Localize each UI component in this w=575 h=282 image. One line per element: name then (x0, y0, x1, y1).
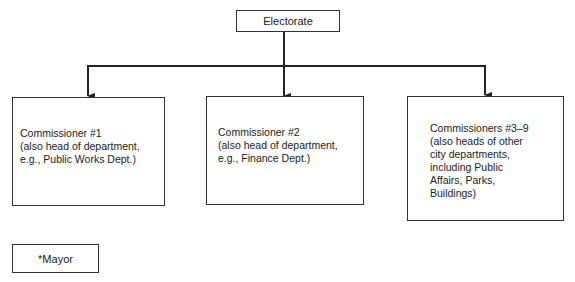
electorate-box: Electorate (236, 10, 340, 32)
mayor-label: *Mayor (38, 253, 73, 265)
commissioners-3-9-box: Commissioners #3–9 (also heads of other … (407, 96, 564, 221)
commissioner-2-title: Commissioner #2 (218, 126, 363, 139)
commissioner-1-title: Commissioner #1 (20, 127, 164, 140)
commissioners-3-9-line-3: including Public (430, 161, 563, 174)
commissioner-1-box: Commissioner #1 (also head of department… (12, 97, 165, 206)
commissioner-2-box: Commissioner #2 (also head of department… (206, 96, 364, 205)
commissioners-3-9-line-2: city departments, (430, 148, 563, 161)
commissioner-2-line-1: (also head of department, (218, 139, 363, 152)
commissioners-3-9-line-4: Affairs, Parks, (430, 174, 563, 187)
commissioner-1-line-1: (also head of department, (20, 140, 164, 153)
commissioners-3-9-line-1: (also heads of other (430, 135, 563, 148)
electorate-label: Electorate (263, 15, 313, 27)
commissioner-1-line-2: e.g., Public Works Dept.) (20, 153, 164, 166)
commissioner-2-line-2: e.g., Finance Dept.) (218, 152, 363, 165)
commissioners-3-9-line-5: Buildings) (430, 187, 563, 200)
mayor-box: *Mayor (12, 244, 99, 273)
commissioners-3-9-title: Commissioners #3–9 (430, 122, 563, 135)
